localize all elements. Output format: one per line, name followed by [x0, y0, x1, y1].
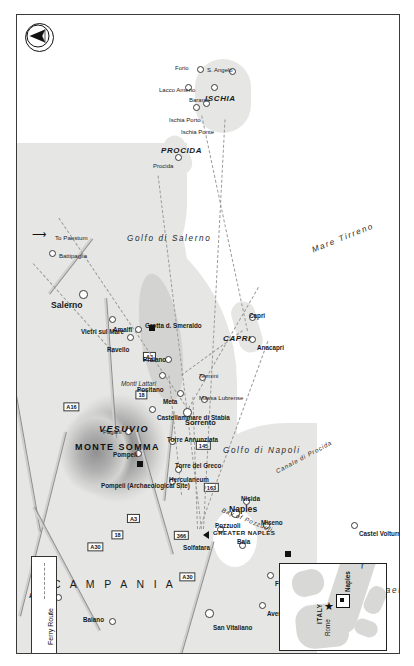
marker-vietri-sul-mare[interactable] — [109, 316, 116, 323]
marker-ravello[interactable] — [127, 334, 134, 341]
label-pompei: Pompeii — [113, 452, 138, 459]
label-termini: Termini — [199, 373, 218, 379]
marker-meta[interactable] — [177, 390, 184, 397]
label-nisida: Nisida — [241, 496, 260, 503]
label-greater-naples: GREATER NAPLES — [213, 529, 243, 536]
marker-positano[interactable] — [159, 372, 166, 379]
label-castel-volturno: Castel Volturno — [359, 531, 387, 538]
label-miseno: Miseno — [261, 520, 283, 527]
label-capri-island: CAPRI — [223, 335, 251, 343]
label-barano: Barano — [189, 97, 208, 103]
map-canvas: A30 A30 A16 A3 A3 18 18 366 163 145 — [17, 15, 399, 653]
inset-rome-star-marker: ★ — [324, 602, 334, 610]
label-positano: Positano — [137, 387, 164, 394]
label-pompeii-site: Pompeii (Archaeological Site) — [101, 483, 147, 490]
shield-366: 366 — [174, 531, 189, 540]
inset-label-naples: Naples — [344, 571, 351, 592]
inset-sardinia — [352, 616, 380, 639]
label-pagani: Pagani — [103, 429, 122, 435]
direction-arrow-icon: ⟶ — [32, 229, 46, 240]
marker-salerno[interactable] — [79, 291, 88, 300]
label-pozzuoli: Pozzuoli — [215, 523, 241, 530]
shield-a16: A16 — [63, 402, 79, 411]
label-ischia-island: ISCHIA — [205, 95, 236, 103]
marker-battipaglia[interactable] — [49, 250, 56, 257]
label-anacapri: Anacapri — [257, 345, 284, 352]
inset-map-italy: ★ ITALY Rome Naples ↗ — [279, 563, 387, 651]
marker-solfatara[interactable] — [203, 531, 209, 539]
compass-rose — [25, 23, 54, 52]
marker-aversa[interactable] — [259, 602, 266, 609]
label-ischia-ponte: Ischia Ponte — [181, 129, 201, 135]
legend-ferry-line-sample — [44, 563, 45, 599]
map-frame: A30 A30 A16 A3 A3 18 18 366 163 145 — [16, 14, 400, 654]
label-torre-del-greco: Torre del Greco — [175, 463, 201, 470]
label-praiano: Praiano — [143, 357, 166, 364]
marker-cuma-site[interactable] — [285, 552, 291, 558]
shield-18-b: 18 — [111, 530, 123, 539]
north-arrow-icon — [26, 24, 50, 48]
marker-amalfi[interactable] — [135, 326, 142, 333]
label-baiano: Baiano — [83, 617, 104, 624]
legend-ferry-label: Ferry Route — [47, 608, 54, 645]
label-castellammare-di-stabia: Castellammare di Stabia — [157, 415, 197, 422]
label-meta: Meta — [163, 399, 177, 406]
label-capri-town: Capri — [249, 313, 265, 320]
label-ravello: Ravello — [107, 347, 129, 354]
label-baia: Baia — [237, 539, 250, 546]
label-naples: Naples — [229, 505, 257, 514]
label-battipaglia: Battipaglia — [59, 253, 87, 259]
marker-pompeii-site[interactable] — [137, 462, 143, 468]
inset-sicily — [289, 567, 326, 600]
legend-item-ferry-route: Ferry Route — [32, 557, 56, 653]
marker-castel-volturno[interactable] — [351, 522, 358, 529]
label-amalfi: Amalfi — [113, 327, 132, 334]
label-ischia-porto: Ischia Porto — [169, 117, 201, 123]
marker-castellammare[interactable] — [149, 406, 156, 413]
label-to-paestum: To Paestum — [55, 235, 88, 242]
label-procida-island: PROCIDA — [161, 147, 202, 155]
label-golfo-di-salerno: Golfo di Salerno — [127, 235, 211, 244]
inset-label-italy: ITALY — [316, 603, 323, 624]
marker-baiano[interactable] — [109, 618, 116, 625]
label-lacco-ameno: Lacco Ameno — [159, 87, 181, 93]
label-san-vitaliano: San Vitaliano — [213, 625, 237, 632]
marker-barano[interactable] — [211, 84, 218, 91]
shield-a3-salerno: A3 — [127, 514, 140, 523]
map-page: A30 A30 A16 A3 A3 18 18 366 163 145 — [0, 0, 414, 666]
label-golfo-di-napoli: Golfo di Napoli — [223, 447, 301, 456]
shield-a30-a: A30 — [179, 572, 195, 581]
label-mare-tirreno: Mare Tirreno — [311, 222, 375, 255]
label-salerno: Salerno — [51, 301, 83, 310]
inset-naples-marker — [340, 598, 344, 602]
label-s-angelo: S. Angelo — [207, 67, 233, 73]
label-solfatara: Solfatara — [183, 545, 210, 552]
region-label-campania: C A M P A N I A — [53, 579, 176, 590]
shield-a30-b: A30 — [87, 542, 103, 551]
label-forio: Forio — [175, 65, 189, 71]
label-massa-lubrense: Massa Lubrense — [199, 395, 243, 401]
label-torre-annunziata: Torre Annunziata — [167, 437, 197, 444]
label-procida-town: Procida — [153, 163, 173, 169]
marker-san-vitaliano[interactable] — [205, 610, 214, 619]
marker-forio[interactable] — [197, 66, 204, 73]
label-vietri-sul-mare: Vietri sul Mare — [81, 329, 107, 336]
legend-box: Ferry Route — [31, 556, 57, 654]
marker-frattamaggiore[interactable] — [267, 572, 274, 579]
marker-ischia-porto[interactable] — [193, 104, 200, 111]
inset-label-rome: Rome — [324, 619, 331, 636]
label-grotta-smeraldo: Grotta d. Smeraldo — [145, 323, 175, 330]
